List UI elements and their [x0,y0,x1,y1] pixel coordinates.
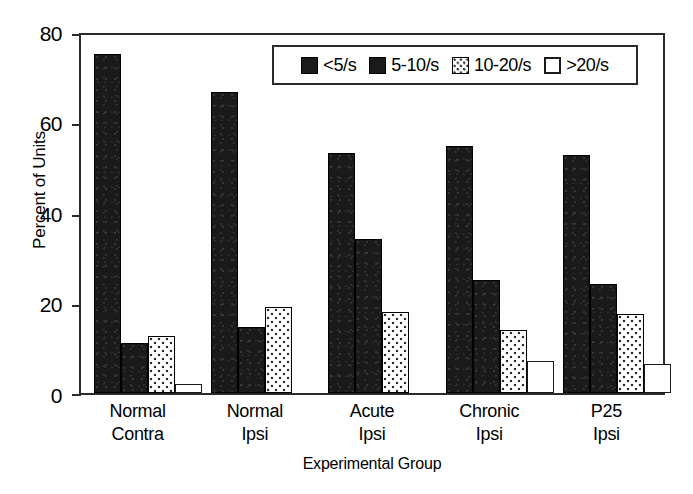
x-tick-label-line2: Ipsi [431,423,548,446]
plot-area: <5/s 5-10/s 10-20/s >20/s [79,33,665,395]
bar-group [433,35,550,393]
bar [527,361,554,393]
legend-swatch-icon [301,57,318,74]
bar [382,312,409,393]
bar [265,307,292,393]
x-tick-label-line1: Acute [313,400,430,423]
legend-swatch-icon [452,57,469,74]
legend-label: <5/s [323,55,356,76]
x-tick-label: ChronicIpsi [431,400,548,446]
legend-entry: 10-20/s [452,55,531,76]
legend-entry: 5-10/s [369,55,439,76]
x-axis-title: Experimental Group [79,455,665,473]
legend-swatch-icon [369,57,386,74]
y-tick-label: 20 [16,294,62,315]
y-tick-mark [72,124,81,126]
y-tick-mark [72,34,81,36]
y-tick-label: 40 [16,204,62,225]
bar [563,155,590,393]
y-axis-tick-labels: 80 60 40 20 0 [16,0,62,494]
bar [473,280,500,393]
x-tick-label: AcuteIpsi [313,400,430,446]
x-tick-label-line2: Contra [79,423,196,446]
y-tick-label: 80 [16,23,62,44]
bar [328,153,355,393]
x-tick-label-line1: Chronic [431,400,548,423]
bar [94,54,121,393]
bar [148,336,175,393]
bar-group [198,35,315,393]
legend-label: >20/s [566,55,609,76]
y-tick-mark [72,305,81,307]
legend-entry: >20/s [544,55,609,76]
bar-chart-figure: Percent of Units 80 60 40 20 0 <5/s 5-10… [0,0,693,494]
y-tick-label: 60 [16,113,62,134]
x-tick-label-line2: Ipsi [548,423,665,446]
bar [617,314,644,393]
y-tick-label: 0 [16,385,62,406]
legend: <5/s 5-10/s 10-20/s >20/s [272,45,638,85]
bar-group [315,35,432,393]
bar [500,330,527,393]
bar [446,146,473,393]
x-tick-label: NormalContra [79,400,196,446]
bar [211,92,238,393]
x-tick-label-line2: Ipsi [313,423,430,446]
x-tick-label-line2: Ipsi [196,423,313,446]
bar [590,284,617,393]
bar [355,239,382,393]
x-tick-label-line1: P25 [548,400,665,423]
bar [121,343,148,393]
x-tick-label-line1: Normal [196,400,313,423]
legend-label: 10-20/s [474,55,531,76]
bar [175,384,202,393]
x-tick-label: NormalIpsi [196,400,313,446]
bar-group [550,35,667,393]
bar [644,364,671,393]
y-tick-mark [72,394,81,396]
bar [238,327,265,393]
x-tick-label: P25Ipsi [548,400,665,446]
legend-entry: <5/s [301,55,356,76]
x-axis-tick-labels: NormalContraNormalIpsiAcuteIpsiChronicIp… [79,400,665,456]
bar-group [81,35,198,393]
legend-label: 5-10/s [391,55,439,76]
x-tick-label-line1: Normal [79,400,196,423]
y-tick-mark [72,215,81,217]
legend-swatch-icon [544,57,561,74]
